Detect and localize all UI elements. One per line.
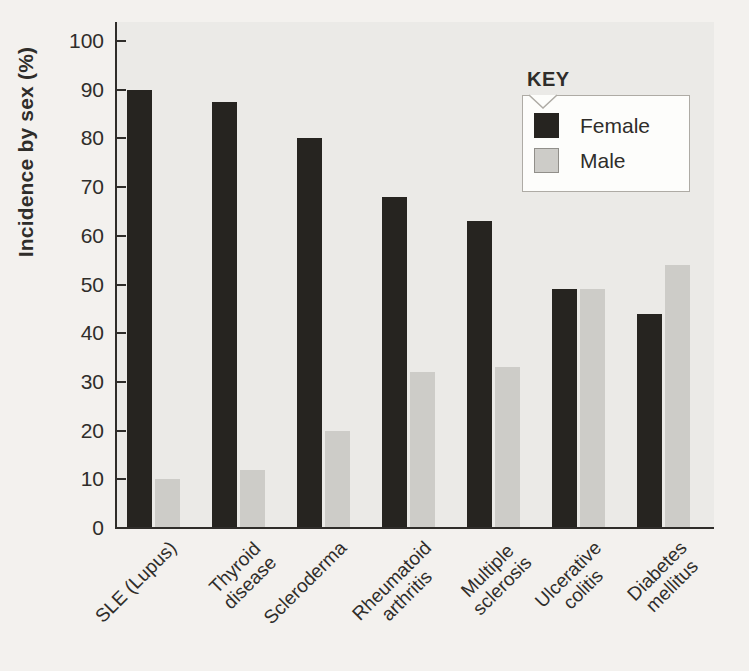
y-tick-label: 100 (54, 29, 104, 53)
y-tick-mark (117, 40, 126, 42)
x-axis-label: Diabetes mellitus (622, 537, 705, 620)
y-tick-mark (117, 332, 126, 334)
y-tick-label: 40 (54, 321, 104, 345)
y-tick-mark (117, 478, 126, 480)
y-tick-label: 10 (54, 467, 104, 491)
y-tick-mark (117, 137, 126, 139)
bar-male (665, 265, 690, 528)
bar-male (240, 470, 265, 528)
x-axis-label: Scleroderma (259, 537, 350, 628)
y-tick-mark (117, 284, 126, 286)
legend-title: KEY (527, 68, 570, 91)
bar-male (495, 367, 520, 528)
y-tick-label: 0 (54, 516, 104, 540)
bar-female (212, 102, 237, 528)
legend-pointer-notch-icon (529, 94, 557, 110)
bar-female (637, 314, 662, 528)
y-tick-mark (117, 430, 126, 432)
y-tick-mark (117, 186, 126, 188)
bar-female (297, 138, 322, 528)
legend-label-male: Male (580, 149, 626, 173)
bar-male (410, 372, 435, 528)
y-tick-label: 70 (54, 175, 104, 199)
x-axis-line (115, 527, 714, 529)
x-axis-label: Multiple sclerosis (453, 537, 535, 619)
y-tick-mark (117, 381, 126, 383)
bar-female (127, 90, 152, 528)
y-tick-label: 20 (54, 419, 104, 443)
incidence-by-sex-bar-chart: Incidence by sex (%) 0102030405060708090… (0, 0, 749, 671)
legend-item-male: Male (534, 148, 626, 173)
y-tick-mark (117, 235, 126, 237)
male-swatch-icon (534, 148, 559, 173)
bar-male (325, 431, 350, 528)
y-tick-label: 30 (54, 370, 104, 394)
y-tick-mark (117, 89, 126, 91)
y-tick-label: 90 (54, 78, 104, 102)
female-swatch-icon (534, 113, 559, 138)
y-axis-title: Incidence by sex (%) (14, 2, 38, 302)
legend-item-female: Female (534, 113, 650, 138)
bar-male (580, 289, 605, 528)
y-tick-label: 80 (54, 126, 104, 150)
y-tick-label: 60 (54, 224, 104, 248)
bar-male (155, 479, 180, 528)
x-axis-label: Thyroid disease (204, 537, 280, 613)
x-axis-label: SLE (Lupus) (91, 537, 181, 627)
bar-female (382, 197, 407, 528)
x-axis-label: Rheumatoid arthritis (348, 537, 450, 639)
y-axis-line (115, 22, 117, 529)
legend-label-female: Female (580, 114, 650, 138)
x-axis-label: Ulcerative colitis (531, 537, 620, 626)
y-tick-label: 50 (54, 273, 104, 297)
bar-female (552, 289, 577, 528)
bar-female (467, 221, 492, 528)
